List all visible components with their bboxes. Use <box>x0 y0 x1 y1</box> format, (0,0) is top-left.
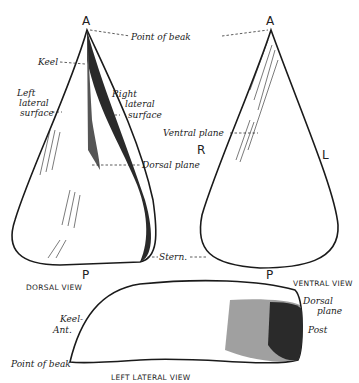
ventral-posterior-label: P <box>266 268 273 282</box>
dorsal-plane-lateral-label-1: Dorsal <box>302 296 333 306</box>
beak-diagram: A A P P R L Point of beak Keel Left late… <box>0 0 359 383</box>
posterior-label: Post <box>307 325 328 335</box>
ventral-view-caption: VENTRAL VIEW <box>293 279 353 288</box>
left-side-label: L <box>322 148 329 162</box>
right-lateral-surface-label-3: surface <box>128 110 162 120</box>
dorsal-view-outline <box>12 30 156 265</box>
right-lateral-surface-label-2: lateral <box>125 99 155 109</box>
dorsal-plane-label: Dorsal plane <box>141 160 200 170</box>
ventral-plane-label: Ventral plane <box>163 128 224 138</box>
point-of-beak-label: Point of beak <box>130 32 191 42</box>
dorsal-view-caption: DORSAL VIEW <box>26 283 83 292</box>
right-lateral-surface-label-1: Right <box>111 89 137 99</box>
left-lateral-surface-label-3: surface <box>20 108 54 118</box>
stern-label: Stern. <box>159 252 187 262</box>
point-of-beak-lateral-label: Point of beak <box>10 359 71 369</box>
right-side-label: R <box>197 143 205 157</box>
anterior-label: Ant. <box>52 325 72 335</box>
keel-label: Keel <box>37 57 58 67</box>
dorsal-anterior-label: A <box>82 14 91 28</box>
left-lateral-surface-label-1: Left <box>16 88 36 98</box>
left-lateral-view-caption: LEFT LATERAL VIEW <box>111 373 191 382</box>
ventral-anterior-label: A <box>266 14 275 28</box>
dorsal-posterior-label: P <box>82 268 89 282</box>
dorsal-plane-lateral-label-2: plane <box>317 306 342 316</box>
keel-lateral-label: Keel- <box>59 314 83 324</box>
left-lateral-surface-label-2: lateral <box>19 98 49 108</box>
ventral-view-outline <box>200 30 338 268</box>
